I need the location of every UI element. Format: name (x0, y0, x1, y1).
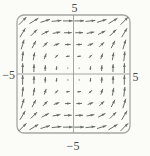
vector-arrow-head (100, 89, 103, 92)
vector-arrow-head (22, 40, 25, 44)
vector-arrow-head (69, 19, 72, 22)
vector-arrow-head (44, 77, 47, 80)
vector-arrow-head (44, 89, 47, 92)
vector-arrow-head (78, 102, 81, 105)
vector-dot (67, 79, 68, 80)
vector-arrow-head (123, 64, 126, 67)
figure: 5 −5 −5 5 (0, 0, 150, 156)
vector-arrow-head (79, 31, 82, 34)
vector-arrow-head (112, 65, 115, 68)
vector-arrow-head (80, 19, 83, 22)
vector-arrow-head (55, 102, 58, 105)
vector-arrow-head (89, 102, 92, 105)
y-axis-bottom-label: −5 (67, 139, 80, 153)
vector-arrow-head (46, 125, 50, 128)
vector-arrow-head (67, 43, 70, 46)
vector-field-plot: 5 −5 −5 5 (0, 0, 150, 156)
vector-arrow-head (103, 19, 107, 22)
vector-dot (79, 79, 80, 80)
vector-arrow-head (67, 102, 70, 105)
vector-arrow-head (100, 77, 103, 80)
x-axis-right-label: 5 (133, 70, 139, 84)
vector-arrow-head (55, 43, 58, 46)
x-axis-left-label: −5 (2, 68, 15, 82)
vector-arrow-head (33, 76, 36, 79)
vector-arrow-head (78, 43, 81, 46)
vector-arrow-head (80, 126, 83, 129)
vector-arrow-head (123, 40, 126, 44)
vector-arrow-head (100, 54, 103, 57)
vector-arrow-head (21, 75, 24, 78)
vector-arrow-head (89, 43, 92, 46)
vector-arrow-head (79, 114, 82, 117)
vector-arrow-head (112, 76, 115, 79)
vector-dot (67, 67, 68, 68)
vector-arrow-head (44, 66, 47, 69)
vector-arrow-head (123, 75, 126, 78)
vector-arrow-head (21, 64, 24, 67)
vector-arrow-head (46, 19, 50, 22)
y-axis-top-label: 5 (72, 1, 78, 15)
vector-arrow-head (123, 99, 126, 103)
vector-arrow-head (33, 65, 36, 68)
vector-arrow-head (103, 125, 107, 128)
vector-arrow-head (68, 31, 71, 34)
vector-arrow-head (68, 114, 71, 117)
vector-arrow-head (22, 99, 25, 103)
vector-dot (79, 67, 80, 68)
vector-arrow-head (69, 126, 72, 129)
vector-arrow-head (44, 54, 47, 57)
vector-arrow-head (100, 66, 103, 69)
